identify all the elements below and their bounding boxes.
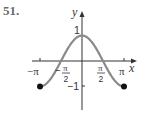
- right-endpoint-dot: [121, 84, 127, 90]
- x-axis: [32, 59, 137, 64]
- x-tick-label-neg-half-pi: − π 2: [55, 63, 70, 84]
- cosine-graph: y x 1 −1 −π π − π 2 π 2: [0, 0, 144, 117]
- x-tick-label-neg-pi: −π: [27, 65, 39, 77]
- y-tick-label-1: 1: [74, 24, 80, 36]
- svg-text:−: −: [55, 65, 61, 76]
- svg-text:π: π: [63, 63, 68, 73]
- svg-text:2: 2: [64, 74, 69, 84]
- x-tick-label-pi: π: [119, 65, 125, 77]
- x-tick-label-half-pi: π 2: [97, 63, 105, 84]
- x-axis-label: x: [128, 61, 135, 75]
- svg-text:2: 2: [99, 74, 104, 84]
- y-axis-arrow-icon: [80, 11, 85, 17]
- svg-text:π: π: [98, 63, 103, 73]
- left-endpoint-dot: [37, 84, 43, 90]
- y-axis-label: y: [71, 5, 78, 19]
- y-tick-label-neg1: −1: [67, 80, 79, 92]
